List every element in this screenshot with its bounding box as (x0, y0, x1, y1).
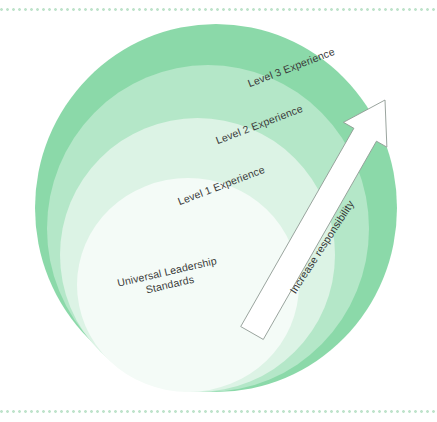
arrow-icon (241, 100, 387, 339)
diagram-canvas: Level 3 Experience Level 2 Experience Le… (0, 0, 437, 422)
dotted-rule-bottom (0, 410, 437, 413)
increase-responsibility-arrow (0, 0, 437, 422)
